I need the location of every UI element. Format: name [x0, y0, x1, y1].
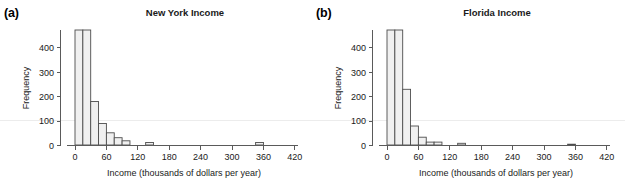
- ytick-label: 0: [361, 141, 366, 151]
- xtick-label: 60: [413, 152, 423, 162]
- bar: [146, 143, 154, 146]
- xtick-label: 60: [101, 152, 111, 162]
- xtick-label: 360: [256, 152, 271, 162]
- panel-a-yticks: [57, 48, 61, 146]
- panel-b-bars: [387, 30, 575, 145]
- xtick-label: 120: [442, 152, 457, 162]
- ytick-label: 200: [351, 92, 366, 102]
- panel-b-xtick-labels: 0 60 120 180 240 300 360 420: [384, 152, 614, 162]
- bar: [426, 142, 434, 145]
- ytick-label: 100: [39, 116, 54, 126]
- bar: [75, 30, 83, 145]
- xtick-label: 420: [599, 152, 614, 162]
- panel-b-xlabel: Income (thousands of dollars per year): [419, 168, 573, 178]
- panel-a-plot: 0 100 200 300 400 0 60 120 1: [0, 0, 312, 182]
- xtick-label: 300: [224, 152, 239, 162]
- panel-a-letter: (a): [4, 6, 19, 20]
- ytick-label: 100: [351, 116, 366, 126]
- bar: [458, 143, 466, 145]
- bar: [387, 30, 395, 145]
- xtick-label: 240: [505, 152, 520, 162]
- xtick-label: 120: [130, 152, 145, 162]
- ytick-label: 300: [39, 68, 54, 78]
- ytick-label: 300: [351, 68, 366, 78]
- figure-container: (a) New York Income: [0, 0, 625, 182]
- bar: [434, 142, 442, 145]
- bar: [106, 133, 114, 145]
- panel-a-xlabel: Income (thousands of dollars per year): [107, 168, 261, 178]
- panel-a-ytick-labels: 0 100 200 300 400: [39, 43, 54, 151]
- xtick-label: 180: [162, 152, 177, 162]
- ytick-label: 200: [39, 92, 54, 102]
- bar: [411, 126, 419, 145]
- panel-a-title: New York Income: [60, 7, 310, 18]
- panel-b-plot: 0 100 200 300 400 0 60 120 180: [312, 0, 624, 182]
- panel-a: (a) New York Income: [0, 0, 312, 182]
- panel-b-title: Florida Income: [372, 7, 622, 18]
- xtick-label: 300: [536, 152, 551, 162]
- bar: [99, 124, 107, 146]
- panel-a-xticks: [75, 146, 295, 150]
- panel-b-xticks: [387, 146, 607, 150]
- panel-b-ylabel: Frequency: [333, 66, 343, 109]
- panel-b-yticks: [369, 48, 373, 146]
- bar: [83, 30, 91, 145]
- xtick-label: 420: [287, 152, 302, 162]
- bar: [114, 138, 122, 145]
- ytick-label: 400: [351, 43, 366, 53]
- xtick-label: 0: [384, 152, 389, 162]
- bar: [91, 102, 99, 146]
- panel-b-ytick-labels: 0 100 200 300 400: [351, 43, 366, 151]
- ytick-label: 400: [39, 43, 54, 53]
- bar: [403, 89, 411, 145]
- xtick-label: 240: [193, 152, 208, 162]
- panel-a-ylabel: Frequency: [21, 66, 31, 109]
- bar: [122, 141, 130, 145]
- xtick-label: 360: [568, 152, 583, 162]
- ytick-label: 0: [49, 141, 54, 151]
- panel-a-xtick-labels: 0 60 120 180 240 300 360 420: [72, 152, 302, 162]
- bar: [256, 143, 264, 146]
- bar: [568, 144, 576, 145]
- panel-b-letter: (b): [316, 6, 331, 20]
- panel-b: (b) Florida Income: [312, 0, 624, 182]
- xtick-label: 180: [474, 152, 489, 162]
- xtick-label: 0: [72, 152, 77, 162]
- panel-a-bars: [75, 30, 263, 145]
- bar: [395, 30, 403, 145]
- bar: [418, 137, 426, 145]
